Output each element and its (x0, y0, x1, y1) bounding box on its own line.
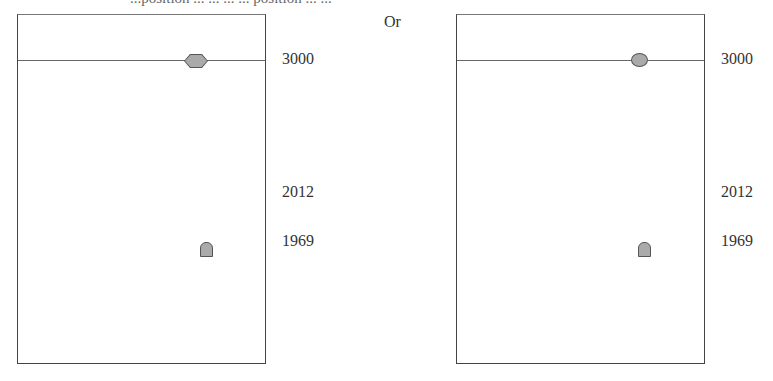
right-label-2012: 2012 (721, 183, 753, 201)
left-panel (17, 14, 266, 364)
left-label-2012: 2012 (282, 183, 314, 201)
timeline-3000-line (18, 60, 265, 61)
right-panel (456, 14, 705, 364)
cut-off-caption: ...position ... ... ... ... position ...… (130, 0, 332, 7)
left-label-1969: 1969 (282, 232, 314, 250)
timeline-3000-line (457, 60, 704, 61)
oval-marker-icon (631, 53, 648, 67)
right-label-3000: 3000 (721, 50, 753, 68)
tombstone-marker-icon (638, 242, 651, 257)
or-label: Or (384, 13, 401, 31)
right-label-1969: 1969 (721, 232, 753, 250)
tombstone-marker-icon (200, 242, 213, 257)
left-label-3000: 3000 (282, 50, 314, 68)
